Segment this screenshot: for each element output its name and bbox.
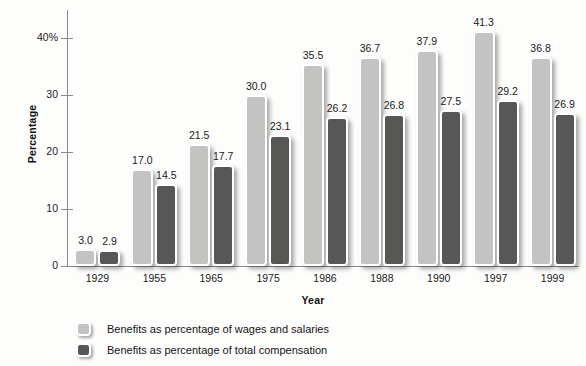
bar-value-label: 26.8: [374, 99, 414, 111]
chart-legend: Benefits as percentage of wages and sala…: [76, 318, 329, 360]
bar[interactable]: [530, 57, 552, 266]
plot-area: 3.02.917.014.521.517.730.023.135.526.236…: [67, 10, 579, 266]
bar[interactable]: [269, 135, 291, 266]
bar-value-label: 27.5: [431, 95, 471, 107]
bar-value-label: 41.3: [464, 16, 504, 28]
bar[interactable]: [554, 113, 576, 266]
bar-value-label: 21.5: [179, 129, 219, 141]
bar[interactable]: [302, 64, 324, 266]
bar[interactable]: [131, 169, 153, 266]
bar[interactable]: [98, 250, 120, 266]
bar-value-label: 17.0: [122, 154, 162, 166]
x-axis-title: Year: [0, 294, 586, 306]
bar[interactable]: [473, 31, 495, 266]
x-axis-tick-label: 1929: [67, 272, 127, 284]
bar-value-label: 36.8: [521, 42, 561, 54]
bar[interactable]: [212, 165, 234, 266]
bar[interactable]: [497, 100, 519, 266]
bar-value-label: 17.7: [203, 150, 243, 162]
y-axis-tick-label: 10: [8, 202, 58, 214]
legend-swatch-icon: [76, 322, 91, 336]
bar-value-label: 35.5: [293, 49, 333, 61]
bar[interactable]: [74, 249, 96, 266]
y-axis-tick-label: 40%: [8, 31, 58, 43]
bar[interactable]: [416, 50, 438, 266]
y-axis-tick-label: 20: [8, 145, 58, 157]
y-axis-tick: [61, 266, 73, 267]
x-axis-tick-label: 1975: [238, 272, 298, 284]
x-axis-tick-label: 1986: [295, 272, 355, 284]
bar[interactable]: [383, 114, 405, 266]
bar-value-label: 2.9: [89, 235, 129, 247]
legend-item[interactable]: Benefits as percentage of wages and sala…: [76, 318, 329, 339]
bar-value-label: 26.2: [317, 102, 357, 114]
bar-chart: Percentage Year 010203040% 3.02.917.014.…: [0, 0, 586, 366]
bar[interactable]: [155, 184, 177, 266]
bar[interactable]: [440, 110, 462, 266]
x-axis-tick-label: 1999: [523, 272, 583, 284]
x-axis-line: [67, 266, 579, 267]
bar-value-label: 29.2: [488, 85, 528, 97]
legend-label: Benefits as percentage of wages and sala…: [107, 323, 329, 335]
bar-value-label: 36.7: [350, 42, 390, 54]
bar-value-label: 23.1: [260, 120, 300, 132]
bar-value-label: 37.9: [407, 35, 447, 47]
bar-value-label: 14.5: [146, 169, 186, 181]
x-axis-tick-label: 1990: [409, 272, 469, 284]
bar-value-label: 26.9: [545, 98, 585, 110]
bar-value-label: 30.0: [236, 80, 276, 92]
y-axis-tick-label: 30: [8, 88, 58, 100]
x-axis-tick-label: 1988: [352, 272, 412, 284]
legend-label: Benefits as percentage of total compensa…: [107, 344, 327, 356]
bar[interactable]: [359, 57, 381, 266]
x-axis-tick-label: 1955: [124, 272, 184, 284]
bar[interactable]: [326, 117, 348, 266]
legend-item[interactable]: Benefits as percentage of total compensa…: [76, 339, 329, 360]
y-axis-tick-label: 0: [8, 259, 58, 271]
x-axis-tick-label: 1997: [466, 272, 526, 284]
legend-swatch-icon: [76, 343, 91, 357]
x-axis-tick-label: 1965: [181, 272, 241, 284]
